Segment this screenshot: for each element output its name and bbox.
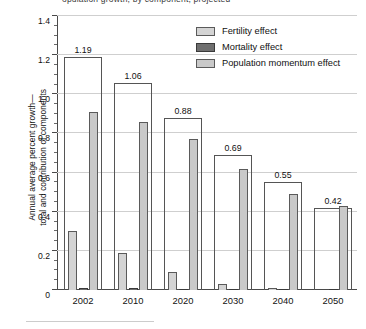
gridline	[57, 172, 357, 173]
bar-chart: opulation growth, by component, projecte…	[0, 0, 366, 329]
y-major-tick	[52, 93, 57, 94]
x-tick-label-2040: 2040	[273, 295, 294, 306]
y-major-tick	[52, 289, 57, 290]
legend-item-fertility: Fertility effect	[196, 24, 340, 38]
total-value-label: 1.19	[64, 45, 102, 55]
gridline	[57, 250, 357, 251]
y-major-tick	[52, 15, 57, 16]
gridline	[57, 93, 357, 94]
bar-momentum	[89, 112, 98, 290]
y-axis-title-line-1: Annual average percent growth—	[27, 41, 38, 273]
gridline	[57, 132, 357, 133]
bar-fertility	[218, 284, 227, 290]
bar-group-2010: 1.06	[114, 16, 152, 290]
total-value-label: 0.42	[314, 196, 352, 206]
bar-fertility	[168, 272, 177, 290]
bar-mortality	[279, 289, 288, 291]
y-minor-tick	[54, 240, 57, 241]
total-value-label: 0.88	[164, 106, 202, 116]
bar-momentum	[289, 194, 298, 290]
clipped-caption-strip: opulation growth, by component, projecte…	[0, 0, 366, 9]
y-minor-tick	[54, 103, 57, 104]
bar-fertility	[118, 253, 127, 290]
x-axis-line	[57, 289, 357, 290]
legend-item-mortality: Mortality effect	[196, 40, 340, 54]
x-tick-label-2002: 2002	[73, 295, 94, 306]
y-minor-tick	[54, 152, 57, 153]
bar-mortality	[179, 289, 188, 291]
y-minor-tick	[54, 123, 57, 124]
y-major-tick	[52, 211, 57, 212]
legend-label-fertility: Fertility effect	[222, 26, 277, 36]
y-minor-tick	[54, 113, 57, 114]
legend-label-momentum: Population momentum effect	[222, 58, 340, 68]
y-major-tick	[52, 54, 57, 55]
y-minor-tick	[54, 44, 57, 45]
y-minor-tick	[54, 260, 57, 261]
y-axis-title-line-2: total and contribution of components	[38, 41, 49, 273]
bar-mortality	[129, 288, 138, 290]
legend: Fertility effect Mortality effect Popula…	[196, 24, 340, 72]
y-minor-tick	[54, 142, 57, 143]
legend-swatch-momentum-icon	[196, 59, 215, 68]
y-major-tick	[52, 132, 57, 133]
gridline-top	[57, 15, 357, 16]
y-major-tick	[52, 250, 57, 251]
y-minor-tick	[54, 64, 57, 65]
legend-swatch-mortality-icon	[196, 43, 215, 52]
x-tick-label-2030: 2030	[223, 295, 244, 306]
legend-swatch-fertility-icon	[196, 27, 215, 36]
y-minor-tick	[54, 162, 57, 163]
bar-momentum	[239, 169, 248, 290]
gridline	[57, 211, 357, 212]
bar-mortality	[329, 289, 338, 291]
bar-momentum	[339, 206, 348, 290]
y-minor-tick	[54, 84, 57, 85]
total-value-label: 1.06	[114, 71, 152, 81]
legend-item-momentum: Population momentum effect	[196, 56, 340, 70]
y-minor-tick	[54, 35, 57, 36]
x-tick-label-2010: 2010	[123, 295, 144, 306]
y-minor-tick	[54, 230, 57, 231]
x-tick-label-2050: 2050	[323, 295, 344, 306]
y-minor-tick	[54, 181, 57, 182]
total-value-label: 0.55	[264, 170, 302, 180]
y-minor-tick	[54, 201, 57, 202]
y-minor-tick	[54, 25, 57, 26]
y-minor-tick	[54, 279, 57, 280]
y-minor-tick	[54, 191, 57, 192]
y-minor-tick	[54, 74, 57, 75]
bar-fertility	[268, 288, 277, 290]
bar-group-2002: 1.19	[64, 16, 102, 290]
total-value-label: 0.69	[214, 143, 252, 153]
bar-mortality	[229, 289, 238, 291]
bar-mortality	[79, 288, 88, 290]
y-minor-tick	[54, 269, 57, 270]
bar-fertility	[68, 231, 77, 290]
y-axis-title: Annual average percent growth— total and…	[27, 41, 50, 273]
x-tick-label-2020: 2020	[173, 295, 194, 306]
bar-momentum	[189, 139, 198, 290]
y-major-tick	[52, 172, 57, 173]
clipped-caption-text: opulation growth, by component, projecte…	[62, 0, 230, 4]
legend-label-mortality: Mortality effect	[222, 42, 282, 52]
bar-momentum	[139, 122, 148, 290]
y-minor-tick	[54, 221, 57, 222]
footer-rule	[26, 321, 154, 322]
